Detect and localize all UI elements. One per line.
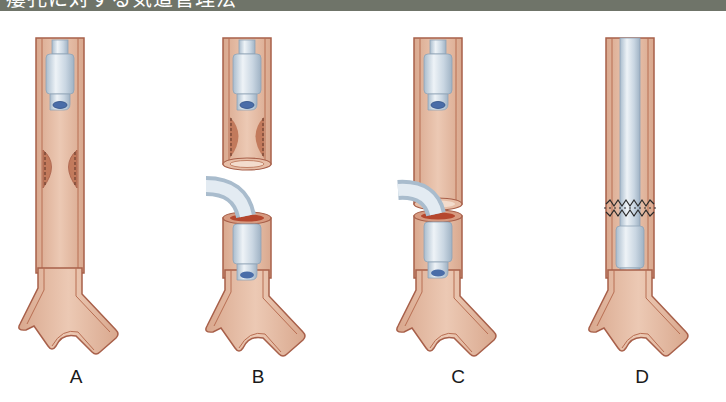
panel-b-illustration bbox=[206, 38, 305, 356]
panel-label-b: B bbox=[243, 366, 273, 388]
panel-label-a: A bbox=[61, 366, 91, 388]
panel-c-illustration bbox=[397, 38, 496, 356]
panel-label-c: C bbox=[443, 366, 473, 388]
panel-d-illustration bbox=[589, 38, 688, 356]
panel-a-illustration bbox=[19, 38, 118, 354]
panel-label-d: D bbox=[627, 366, 657, 388]
diagram-canvas bbox=[0, 0, 726, 402]
